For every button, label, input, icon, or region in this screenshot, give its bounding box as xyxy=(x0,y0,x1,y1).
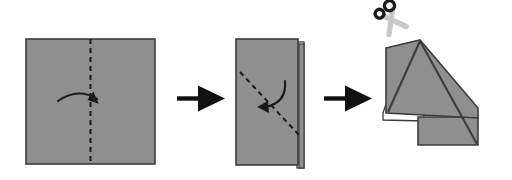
step-3-group xyxy=(372,0,478,145)
step2-mid-layer xyxy=(299,44,304,168)
scissors-icon xyxy=(372,0,406,36)
step3-main-triangle-body xyxy=(386,40,478,118)
scissors-ring-left xyxy=(374,8,386,20)
step-2-group xyxy=(236,39,304,168)
diagram-canvas xyxy=(0,0,512,180)
scissors-ring-right xyxy=(383,0,396,12)
step-1-group xyxy=(26,39,155,164)
fold-instruction-diagram xyxy=(0,0,512,180)
